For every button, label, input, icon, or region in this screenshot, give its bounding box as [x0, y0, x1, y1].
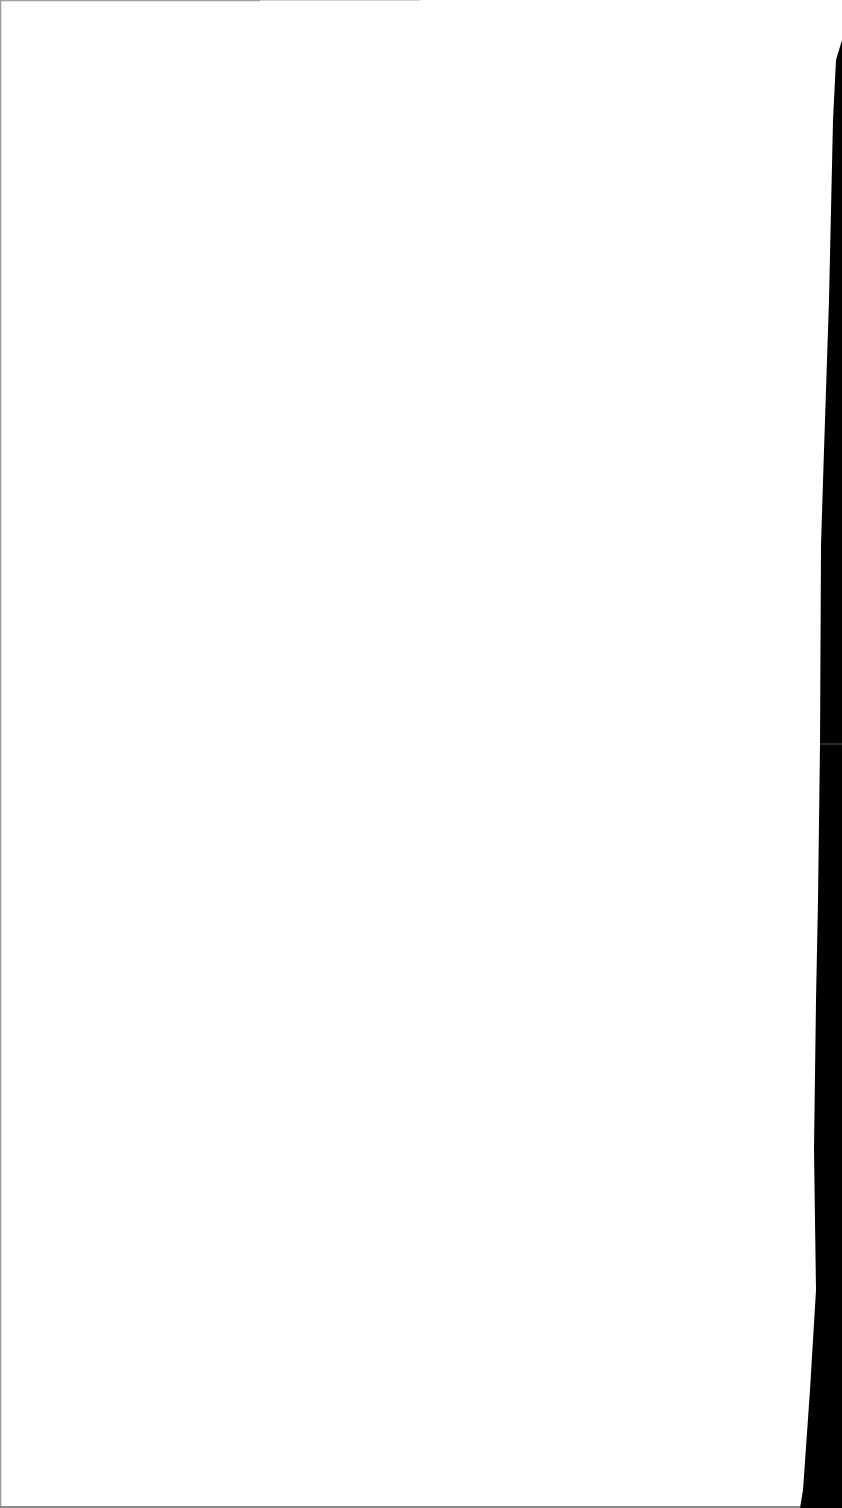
paper-sheet: [0, 0, 842, 1508]
scanned-document: [0, 0, 842, 1508]
paper-page: [0, 0, 842, 1508]
